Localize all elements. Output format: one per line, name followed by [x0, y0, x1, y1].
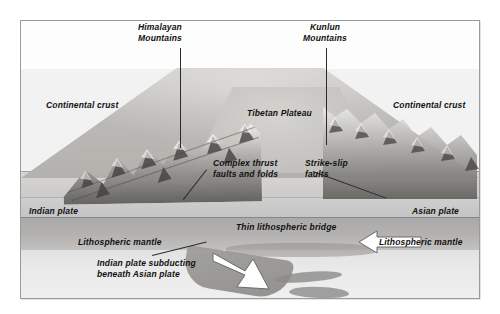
plate-mantle-boundary-line	[21, 217, 479, 218]
label-himalayan-mountains: Himalayan Mountains	[120, 22, 200, 44]
label-asian-plate: Asian plate	[412, 206, 459, 217]
label-lithospheric-mantle-right: Lithospheric mantle	[379, 237, 463, 248]
label-tibetan-plateau: Tibetan Plateau	[247, 108, 312, 119]
label-kunlun-mountains: Kunlun Mountains	[285, 22, 365, 44]
label-thin-lithospheric-bridge: Thin lithospheric bridge	[236, 222, 336, 233]
figure-root: Himalayan Mountains Kunlun Mountains Con…	[0, 0, 500, 314]
label-strike-slip-faults: Strike-slip faults	[305, 158, 348, 180]
label-indian-plate: Indian plate	[29, 206, 78, 217]
leader-himalayan-mountains	[180, 48, 181, 148]
label-continental-crust-right: Continental crust	[393, 100, 465, 111]
background-sky	[21, 21, 479, 69]
label-indian-plate-subducting: Indian plate subducting beneath Asian pl…	[97, 258, 196, 280]
label-continental-crust-left: Continental crust	[46, 100, 118, 111]
label-lithospheric-mantle-left: Lithospheric mantle	[78, 237, 162, 248]
leader-kunlun-mountains	[326, 48, 327, 145]
label-complex-thrust-faults: Complex thrust faults and folds	[213, 158, 278, 180]
subduction-arrow	[211, 249, 277, 297]
